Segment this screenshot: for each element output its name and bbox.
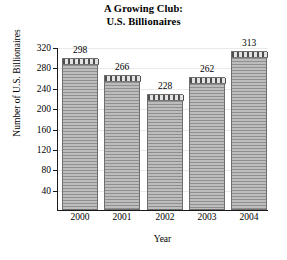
bar-slot: 2622003 bbox=[189, 47, 225, 210]
bar-value-label: 266 bbox=[96, 62, 148, 72]
y-tick-label: 40 bbox=[42, 186, 52, 196]
y-tick-mark bbox=[53, 89, 57, 90]
bar-slot: 2282002 bbox=[147, 47, 183, 210]
y-tick-label: 240 bbox=[37, 84, 51, 94]
bar-cap bbox=[63, 59, 99, 65]
bar[interactable] bbox=[231, 51, 267, 210]
y-axis-title: Number of U.S. Billionaires bbox=[12, 0, 22, 168]
y-tick-mark bbox=[53, 191, 57, 192]
x-axis-line bbox=[57, 210, 268, 211]
bar[interactable] bbox=[62, 58, 98, 210]
bar-cap bbox=[105, 76, 141, 82]
x-tick-label: 2004 bbox=[223, 212, 275, 222]
y-tick-mark bbox=[53, 150, 57, 151]
bar-cap bbox=[148, 95, 184, 101]
y-tick-label: 80 bbox=[42, 166, 52, 176]
bar-cap bbox=[190, 78, 226, 84]
bar[interactable] bbox=[104, 75, 140, 210]
bar[interactable] bbox=[147, 94, 183, 210]
y-tick-mark bbox=[53, 130, 57, 131]
y-tick-mark bbox=[53, 170, 57, 171]
y-tick-label: 120 bbox=[37, 145, 51, 155]
chart-title: A Growing Club: U.S. Billionaires bbox=[0, 3, 287, 28]
bar-slot: 2662001 bbox=[104, 47, 140, 210]
bar-value-label: 262 bbox=[181, 64, 233, 74]
y-tick-mark bbox=[53, 68, 57, 69]
bar[interactable] bbox=[189, 77, 225, 210]
y-tick-mark bbox=[53, 109, 57, 110]
y-tick-label: 160 bbox=[37, 125, 51, 135]
y-tick-label: 200 bbox=[37, 105, 51, 115]
bar-value-label: 228 bbox=[139, 81, 191, 91]
bar-value-label: 313 bbox=[223, 38, 275, 48]
y-tick-label: 320 bbox=[37, 44, 51, 54]
chart-title-line-1: A Growing Club: bbox=[0, 3, 287, 16]
bar-slot: 2982000 bbox=[62, 47, 98, 210]
x-axis-title: Year bbox=[57, 234, 268, 244]
chart-title-line-2: U.S. Billionaires bbox=[0, 16, 287, 29]
bar-value-label: 298 bbox=[54, 45, 106, 55]
plot-area: 4080120160200240280320 29820002662001228… bbox=[57, 48, 268, 211]
bar-cap bbox=[232, 52, 268, 58]
bar-chart: A Growing Club: U.S. Billionaires Number… bbox=[0, 0, 287, 260]
bar-slot: 3132004 bbox=[231, 47, 267, 210]
y-tick-label: 280 bbox=[37, 64, 51, 74]
